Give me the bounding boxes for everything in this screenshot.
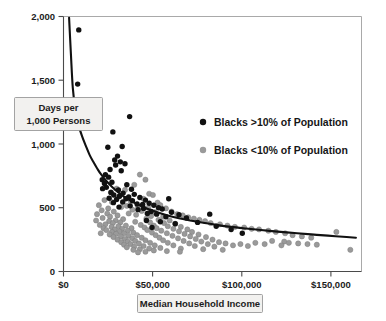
data-point <box>158 245 163 250</box>
data-point <box>98 231 103 236</box>
data-point <box>112 157 117 162</box>
y-axis-label-line2: 1,000 Persons <box>27 115 91 126</box>
data-point <box>176 229 181 234</box>
chart-canvas: 0 500 1,000 1,500 2,000 $0 $50,000 $100,… <box>0 0 386 321</box>
data-point <box>160 206 165 211</box>
data-point <box>137 195 142 200</box>
data-point <box>102 198 107 203</box>
data-point <box>129 187 134 192</box>
data-point <box>245 243 250 248</box>
data-point <box>111 200 116 205</box>
data-point <box>171 243 176 248</box>
data-point <box>314 242 319 247</box>
data-point <box>131 247 136 252</box>
data-point <box>145 211 150 216</box>
data-point <box>192 243 197 248</box>
data-point <box>270 238 275 243</box>
data-point <box>148 240 153 245</box>
data-point <box>137 172 142 177</box>
data-point <box>212 244 217 249</box>
data-point <box>207 211 212 216</box>
data-point <box>238 241 243 246</box>
data-point <box>135 207 140 212</box>
data-point <box>216 240 221 245</box>
chart-background <box>0 0 386 321</box>
data-point <box>151 203 156 208</box>
x-tick-label-100000: $100,000 <box>222 279 262 290</box>
data-point <box>104 227 109 232</box>
data-point <box>167 218 172 223</box>
data-point <box>161 238 166 243</box>
x-axis-label: Median Household Income <box>140 298 260 309</box>
data-point <box>240 231 245 236</box>
data-point <box>119 144 124 149</box>
data-point <box>166 196 171 201</box>
data-point <box>296 241 301 246</box>
data-point <box>253 240 258 245</box>
data-point <box>143 249 148 254</box>
data-point <box>154 226 159 231</box>
legend-marker-gray <box>200 147 206 153</box>
data-point <box>110 129 115 134</box>
legend-label-under-10: Blacks <10% of Population <box>214 144 348 156</box>
data-point <box>175 236 180 241</box>
x-axis-label-box: Median Household Income <box>138 295 263 313</box>
data-point <box>150 192 155 197</box>
x-tick-label-0: $0 <box>58 279 69 290</box>
data-point <box>348 247 353 252</box>
data-point <box>132 182 137 187</box>
data-point <box>134 212 139 217</box>
x-tick-label-50000: $50,000 <box>135 279 169 290</box>
data-point <box>144 218 149 223</box>
x-tick-label-150000: $150,000 <box>311 279 351 290</box>
data-point <box>94 212 99 217</box>
data-point <box>146 201 151 206</box>
data-point <box>113 162 118 167</box>
data-point <box>171 226 176 231</box>
data-point <box>220 247 225 252</box>
data-point <box>188 234 193 239</box>
data-point <box>187 241 192 246</box>
data-point <box>170 233 175 238</box>
data-point <box>135 250 140 255</box>
data-point <box>201 247 206 252</box>
data-point <box>176 212 181 217</box>
data-point <box>309 235 314 240</box>
data-point <box>165 240 170 245</box>
y-axis-label-box: Days per 1,000 Persons <box>15 98 103 131</box>
data-point <box>115 213 120 218</box>
data-point <box>223 241 228 246</box>
data-point <box>165 224 170 229</box>
data-point <box>118 159 123 164</box>
data-point <box>203 234 208 239</box>
data-point <box>99 208 104 213</box>
data-point <box>119 168 124 173</box>
data-point <box>149 225 154 230</box>
data-point <box>262 241 267 246</box>
data-point <box>151 248 156 253</box>
data-point <box>164 231 169 236</box>
data-point <box>173 221 178 226</box>
data-point <box>93 218 98 223</box>
data-point <box>158 219 163 224</box>
y-tick-label-2000: 2,000 <box>31 11 55 22</box>
data-point <box>305 241 310 246</box>
scatter-chart: 0 500 1,000 1,500 2,000 $0 $50,000 $100,… <box>0 0 386 321</box>
data-point <box>152 243 157 248</box>
data-point <box>164 249 169 254</box>
data-point <box>75 81 80 86</box>
data-point <box>145 227 150 232</box>
data-point <box>159 228 164 233</box>
data-point <box>106 195 111 200</box>
data-point <box>182 231 187 236</box>
data-point <box>193 236 198 241</box>
legend-label-over-10: Blacks >10% of Population <box>214 116 348 128</box>
data-point <box>124 182 129 187</box>
data-point <box>143 238 148 243</box>
data-point <box>334 229 339 234</box>
data-point <box>177 249 182 254</box>
y-tick-label-0: 0 <box>50 266 55 277</box>
y-tick-label-1000: 1,000 <box>31 139 55 150</box>
data-point <box>127 203 132 208</box>
data-point <box>100 215 105 220</box>
